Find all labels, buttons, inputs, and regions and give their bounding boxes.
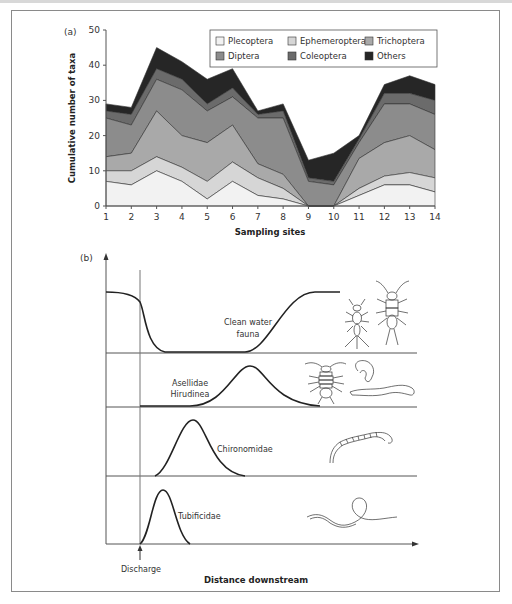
- x-tick-label: 3: [154, 212, 160, 222]
- stacked-areas: [106, 48, 435, 206]
- chironomid-larva-icon: [330, 432, 392, 463]
- asellidae-label-line1: Asellidae: [172, 379, 208, 388]
- x-axis: 1234567891011121314: [103, 206, 441, 222]
- x-axis-arrowhead-icon: [412, 542, 419, 547]
- asellus-icon: [305, 363, 346, 404]
- legend-label-plecoptera: Plecoptera: [228, 36, 273, 46]
- x-tick-label: 12: [379, 212, 390, 222]
- x-tick-label: 11: [353, 212, 364, 222]
- leech-icon: [350, 361, 414, 396]
- chironomidae-label: Chironomidae: [217, 445, 273, 454]
- x-tick-label: 1: [103, 212, 109, 222]
- x-tick-label: 7: [255, 212, 261, 222]
- x-tick-label: 10: [328, 212, 340, 222]
- discharge-arrow-icon: [138, 545, 143, 551]
- clean-water-label-line1: Clean water: [224, 318, 273, 327]
- x-tick-label: 2: [128, 212, 134, 222]
- legend-swatch-ephemeroptera: [288, 37, 296, 45]
- y-tick-label: 50: [89, 25, 101, 35]
- x-tick-label: 5: [204, 212, 210, 222]
- y-tick-label: 10: [89, 166, 101, 176]
- tubifex-worm-icon: [307, 498, 397, 527]
- figure-canvas: (a) 01020304050 1234567891011121314 Cumu…: [0, 0, 512, 604]
- x-tick-label: 13: [404, 212, 415, 222]
- y-axis-arrowhead-icon: [104, 253, 109, 260]
- x-tick-label: 9: [306, 212, 312, 222]
- y-tick-label: 0: [94, 201, 100, 211]
- legend-swatch-plecoptera: [216, 37, 224, 45]
- legend-label-trichoptera: Trichoptera: [376, 36, 425, 46]
- legend-swatch-coleoptera: [288, 52, 296, 60]
- discharge-label: Discharge: [121, 565, 161, 574]
- legend-swatch-diptera: [216, 52, 224, 60]
- legend-label-ephemeroptera: Ephemeroptera: [300, 36, 366, 46]
- y-tick-label: 20: [89, 131, 101, 141]
- panel-b-x-axis-label: Distance downstream: [204, 575, 308, 585]
- y-tick-label: 40: [89, 60, 101, 70]
- clean-water-label-line2: fauna: [237, 330, 260, 339]
- legend-label-coleoptera: Coleoptera: [300, 51, 347, 61]
- stonefly-nymph-icon: [376, 281, 409, 345]
- legend-label-diptera: Diptera: [228, 51, 260, 61]
- y-axis: 01020304050: [89, 25, 106, 211]
- panel-b-diagram: (b) Discharge Distance downstream Clean …: [80, 253, 419, 585]
- x-tick-label: 14: [429, 212, 441, 222]
- y-tick-label: 30: [89, 95, 101, 105]
- mayfly-nymph-icon: [345, 299, 369, 349]
- legend-swatch-others: [365, 52, 373, 60]
- x-tick-label: 6: [230, 212, 236, 222]
- legend-swatch-trichoptera: [365, 37, 373, 45]
- asellidae-hirudinea-curve: [140, 366, 320, 406]
- tubificidae-label: Tubificidae: [177, 512, 221, 521]
- x-tick-label: 4: [179, 212, 185, 222]
- legend: PlecopteraEphemeropteraTrichopteraDipter…: [210, 30, 437, 67]
- panel-b-label: (b): [80, 253, 93, 263]
- panel-a-stacked-area-chart: (a) 01020304050 1234567891011121314 Cumu…: [64, 25, 441, 237]
- y-axis-label: Cumulative number of taxa: [67, 52, 77, 183]
- legend-label-others: Others: [377, 51, 406, 61]
- asellidae-label-line2: Hirudinea: [171, 390, 210, 399]
- x-tick-label: 8: [280, 212, 286, 222]
- x-axis-label: Sampling sites: [235, 227, 306, 237]
- panel-a-label: (a): [64, 27, 77, 37]
